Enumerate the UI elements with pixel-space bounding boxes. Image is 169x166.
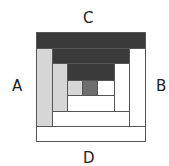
round2-right-strip [114,63,130,112]
round2-top-strip [52,48,130,64]
side-label-d: D [83,151,95,166]
side-label-c: C [83,11,93,26]
side-label-a: A [12,79,22,94]
round3-right-strip [97,80,115,96]
side-label-b: B [156,79,166,94]
round3-bottom-strip [67,95,115,112]
round1-right-strip [129,48,146,127]
center-square [82,80,98,96]
round1-top-strip [36,32,146,49]
round1-left-strip [36,48,53,127]
round2-bottom-strip [52,111,130,127]
round3-left-strip [67,80,83,96]
round2-left-strip [52,63,68,112]
round3-top-strip [67,63,115,81]
round1-bottom-strip [36,126,146,142]
